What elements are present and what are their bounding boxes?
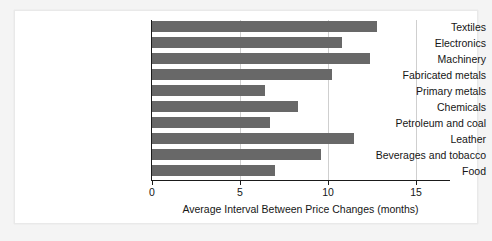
- x-axis-title: Average Interval Between Price Changes (…: [151, 203, 450, 215]
- bar-electronics: [152, 37, 342, 48]
- figure-frame: Textiles Electronics Machinery Fabricate…: [0, 0, 492, 241]
- xtick-mark-0: [152, 180, 153, 185]
- bar-primary-metals: [152, 85, 265, 96]
- category-label-chemicals: Chemicals: [350, 102, 492, 113]
- bar-fabricated-metals: [152, 69, 332, 80]
- bar-chart: Textiles Electronics Machinery Fabricate…: [0, 0, 492, 241]
- category-label-fabricated-metals: Fabricated metals: [350, 70, 492, 81]
- bar-beverages-and-tobacco: [152, 149, 321, 160]
- category-label-leather: Leather: [350, 134, 492, 145]
- category-label-petroleum-and-coal: Petroleum and coal: [350, 118, 492, 129]
- category-label-machinery: Machinery: [350, 54, 492, 65]
- category-label-food: Food: [350, 166, 492, 177]
- bar-machinery: [152, 53, 370, 64]
- xtick-label-5: 5: [220, 186, 260, 198]
- bar-chemicals: [152, 101, 298, 112]
- bar-petroleum-and-coal: [152, 117, 270, 128]
- category-label-beverages-and-tobacco: Beverages and tobacco: [350, 150, 492, 161]
- xtick-label-10: 10: [308, 186, 348, 198]
- category-label-primary-metals: Primary metals: [350, 86, 492, 97]
- xtick-mark-10: [328, 180, 329, 185]
- x-axis-line: [151, 180, 450, 181]
- bar-food: [152, 165, 275, 176]
- xtick-label-15: 15: [396, 186, 436, 198]
- xtick-mark-15: [416, 180, 417, 185]
- xtick-mark-5: [240, 180, 241, 185]
- xtick-label-0: 0: [132, 186, 172, 198]
- bar-leather: [152, 133, 354, 144]
- category-label-electronics: Electronics: [350, 38, 492, 49]
- bar-textiles: [152, 21, 377, 32]
